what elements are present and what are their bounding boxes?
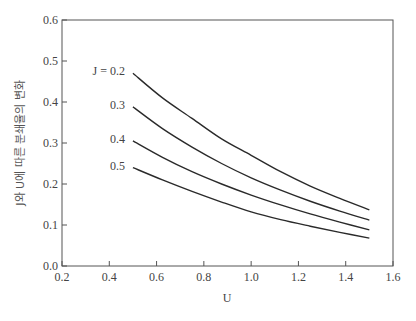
curves — [133, 73, 369, 238]
y-tick-label: 0.2 — [43, 177, 58, 191]
y-tick-label: 0.1 — [43, 218, 58, 232]
y-tick-label: 0.5 — [43, 54, 58, 68]
curve-0.3 — [133, 107, 369, 220]
x-axis-label: U — [223, 291, 232, 305]
axes: 0.20.40.60.81.01.21.41.60.00.10.20.30.40… — [43, 13, 401, 284]
x-tick-label: 1.0 — [244, 270, 259, 284]
series-label: 0.5 — [110, 159, 125, 173]
series-label: J = 0.2 — [92, 64, 124, 78]
y-tick-label: 0.4 — [43, 95, 58, 109]
x-tick-label: 1.2 — [291, 270, 306, 284]
curve-0.2 — [133, 73, 369, 210]
series-labels: J = 0.20.30.40.5 — [92, 64, 124, 172]
y-tick-label: 0.0 — [43, 259, 58, 273]
x-tick-label: 1.4 — [338, 270, 353, 284]
x-tick-label: 0.6 — [149, 270, 164, 284]
x-tick-label: 1.6 — [386, 270, 401, 284]
x-tick-label: 0.8 — [196, 270, 211, 284]
y-tick-label: 0.6 — [43, 13, 58, 27]
line-chart: 0.20.40.60.81.01.21.41.60.00.10.20.30.40… — [0, 0, 416, 321]
series-label: 0.3 — [110, 98, 125, 112]
series-label: 0.4 — [110, 132, 125, 146]
y-axis-label: J와 U에 따른 분쇄율의 변화 — [14, 80, 27, 206]
x-tick-label: 0.4 — [102, 270, 117, 284]
curve-0.4 — [133, 141, 369, 230]
y-tick-label: 0.3 — [43, 136, 58, 150]
